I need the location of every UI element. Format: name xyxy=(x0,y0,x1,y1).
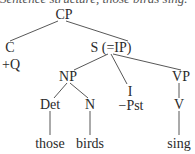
edge-cp-s xyxy=(66,21,128,41)
edge-s-i xyxy=(111,54,127,84)
node-c-feature: +Q xyxy=(2,58,20,72)
edge-s-vp xyxy=(113,54,181,70)
edge-cp-c xyxy=(10,21,58,41)
node-c: C xyxy=(5,41,14,55)
node-det: Det xyxy=(40,98,60,112)
node-i-feature: −Pst xyxy=(118,99,143,113)
edge-s-np xyxy=(74,54,108,70)
edge-np-det xyxy=(54,83,67,98)
node-cp: CP xyxy=(55,8,72,22)
node-np: NP xyxy=(59,70,77,84)
node-vp: VP xyxy=(172,70,190,84)
syntax-tree-diagram: Sentence structure, those birds sing. CP… xyxy=(0,0,195,154)
word-birds: birds xyxy=(76,137,104,151)
node-i: I xyxy=(128,85,133,99)
node-v: V xyxy=(174,98,184,112)
tree-edges xyxy=(0,0,195,154)
word-those: those xyxy=(35,137,65,151)
edge-np-n xyxy=(70,83,88,98)
word-sing: sing xyxy=(167,137,190,151)
node-s: S (=IP) xyxy=(91,41,132,55)
node-n: N xyxy=(85,98,95,112)
